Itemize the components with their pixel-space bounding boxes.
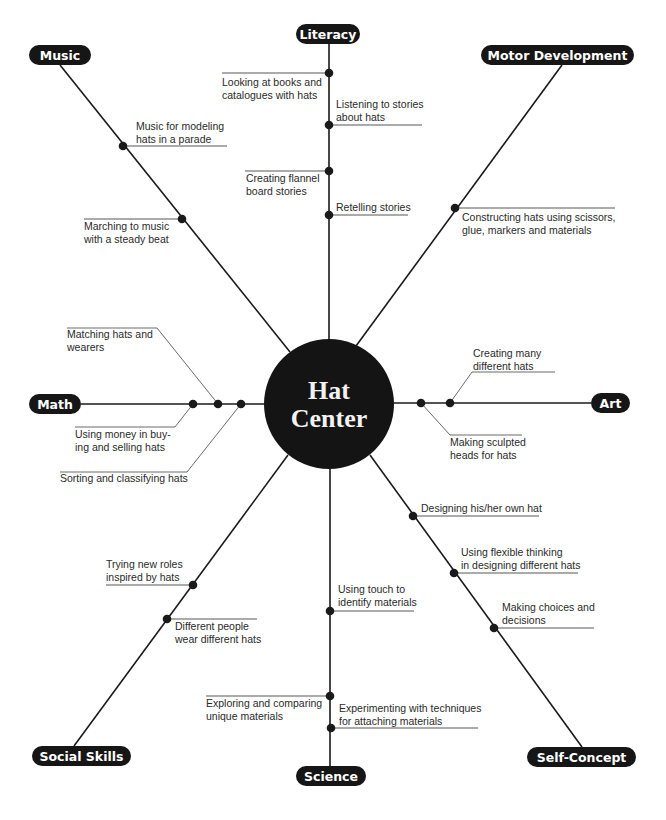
item-dot — [189, 581, 198, 590]
item-dot — [178, 215, 187, 224]
item-label: Looking at books andcatalogues with hats — [222, 76, 322, 101]
item-label: Marching to musicwith a steady beat — [83, 220, 169, 245]
item-label-line: Marching to music — [84, 220, 169, 232]
branch-item-art: Creating manydifferent hats — [446, 347, 555, 407]
item-label: Making choices anddecisions — [502, 601, 595, 626]
category-label: Self-Concept — [537, 750, 627, 765]
item-leader-line — [75, 404, 193, 427]
category-label: Art — [600, 396, 622, 411]
item-label-line: Retelling stories — [336, 201, 411, 213]
category-label: Science — [304, 769, 358, 784]
branch-item-math: Matching hats andwearers — [66, 328, 222, 408]
item-label-line: Looking at books and — [222, 76, 322, 88]
category-pill-music: Music — [29, 45, 91, 65]
item-label-line: Making choices and — [502, 601, 595, 613]
item-leader-line — [450, 372, 555, 403]
item-label-line: heads for hats — [450, 449, 517, 461]
center-title-line2: Center — [291, 404, 368, 433]
item-label-line: Constructing hats using scissors, — [462, 211, 615, 223]
item-label-line: unique materials — [206, 710, 283, 722]
branch-item-music: Music for modelinghats in a parade — [119, 120, 227, 150]
item-dot — [189, 400, 198, 409]
item-dot — [490, 624, 499, 633]
item-label-line: Music for modeling — [136, 120, 224, 132]
branch-item-literacy: Retelling stories — [325, 201, 411, 219]
item-label-line: Listening to stories — [336, 98, 424, 110]
item-label-line: board stories — [246, 185, 307, 197]
item-dot — [237, 400, 246, 409]
item-dot — [446, 399, 455, 408]
item-label-line: Designing his/her own hat — [421, 502, 542, 514]
item-label-line: in designing different hats — [461, 559, 580, 571]
hat-center-web-diagram: Looking at books andcatalogues with hats… — [0, 0, 666, 820]
category-pill-art: Art — [591, 393, 630, 413]
item-label-line: Sorting and classifying hats — [60, 472, 188, 484]
branch-item-motor: Constructing hats using scissors,glue, m… — [451, 204, 616, 236]
item-label-line: catalogues with hats — [222, 89, 317, 101]
item-dot — [409, 512, 418, 521]
item-label: Exploring and comparingunique materials — [206, 697, 322, 722]
item-label-line: Using money in buy- — [75, 428, 171, 440]
branch-item-math: Using money in buy-ing and selling hats — [75, 400, 197, 453]
branch-item-music: Marching to musicwith a steady beat — [83, 215, 186, 245]
item-label-line: ing and selling hats — [75, 441, 165, 453]
category-label: Math — [37, 397, 73, 412]
spoke-music — [60, 65, 290, 352]
category-pill-social: Social Skills — [32, 746, 131, 766]
item-label: Making sculptedheads for hats — [450, 436, 526, 461]
item-label-line: glue, markers and materials — [462, 224, 592, 236]
branch-item-self: Making choices anddecisions — [490, 601, 595, 632]
branch-item-social: Trying new rolesinspired by hats — [106, 558, 197, 589]
branch-item-science: Exploring and comparingunique materials — [206, 692, 334, 722]
item-label-line: wearers — [66, 341, 104, 353]
branch-item-literacy: Creating flannelboard stories — [245, 167, 333, 197]
item-dot — [214, 400, 223, 409]
item-leader-line — [421, 403, 522, 435]
item-label-line: hats in a parade — [136, 133, 211, 145]
item-dot — [326, 607, 335, 616]
branch-item-art: Making sculptedheads for hats — [417, 399, 526, 461]
item-label: Using money in buy-ing and selling hats — [75, 428, 171, 453]
item-label-line: Creating many — [473, 347, 542, 359]
item-label-line: decisions — [502, 614, 546, 626]
item-label-line: different hats — [473, 360, 534, 372]
category-label: Literacy — [300, 27, 357, 42]
item-dot — [417, 399, 426, 408]
item-label-line: Using touch to — [338, 583, 405, 595]
item-dot — [451, 204, 460, 213]
item-dot — [326, 692, 335, 701]
category-label: Motor Development — [488, 48, 628, 63]
category-pill-literacy: Literacy — [296, 24, 360, 44]
category-pill-self: Self-Concept — [527, 747, 636, 767]
item-label: Designing his/her own hat — [421, 502, 542, 514]
item-label: Creating manydifferent hats — [473, 347, 542, 372]
category-pill-science: Science — [296, 766, 366, 786]
item-dot — [325, 211, 334, 220]
item-label-line: inspired by hats — [106, 571, 180, 583]
item-label: Constructing hats using scissors,glue, m… — [462, 211, 615, 236]
item-label: Creating flannelboard stories — [246, 172, 320, 197]
item-dot — [325, 167, 334, 176]
item-label: Using touch toidentify materials — [338, 583, 417, 608]
item-label: Music for modelinghats in a parade — [136, 120, 224, 145]
item-label-line: Matching hats and — [67, 328, 153, 340]
branch-item-literacy: Looking at books andcatalogues with hats — [222, 69, 333, 101]
item-dot — [325, 121, 334, 130]
center-node: Hat Center — [264, 339, 394, 469]
item-dot — [327, 724, 336, 733]
item-label-line: about hats — [336, 111, 385, 123]
item-label-line: Using flexible thinking — [461, 546, 563, 558]
item-label-line: Trying new roles — [106, 558, 183, 570]
branch-item-social: Different peoplewear different hats — [163, 615, 262, 645]
item-label: Using flexible thinkingin designing diff… — [461, 546, 580, 571]
item-label: Trying new rolesinspired by hats — [106, 558, 183, 583]
item-label: Experimenting with techniquesfor attachi… — [339, 702, 481, 727]
item-label: Different peoplewear different hats — [174, 620, 261, 645]
item-label: Retelling stories — [336, 201, 411, 213]
item-dot — [450, 569, 459, 578]
branch-item-literacy: Listening to storiesabout hats — [325, 98, 424, 129]
category-pill-motor: Motor Development — [481, 45, 634, 65]
item-label-line: identify materials — [338, 596, 417, 608]
item-label-line: for attaching materials — [339, 715, 442, 727]
item-label: Matching hats andwearers — [66, 328, 153, 353]
